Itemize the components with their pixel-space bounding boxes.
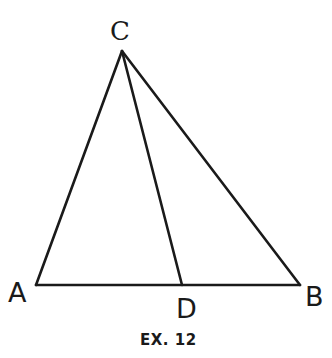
figure-caption: EX. 12 bbox=[140, 331, 197, 349]
segment-ac bbox=[36, 51, 122, 285]
label-b: B bbox=[305, 281, 324, 312]
segment-bc bbox=[122, 51, 300, 285]
label-c: C bbox=[110, 16, 130, 46]
label-d: D bbox=[176, 293, 197, 324]
label-a: A bbox=[8, 277, 27, 308]
segment-cd bbox=[122, 51, 182, 285]
triangle-diagram: C A B D EX. 12 bbox=[0, 0, 332, 358]
